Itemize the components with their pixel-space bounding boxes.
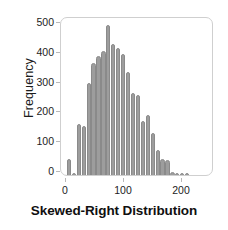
histogram-bar (160, 159, 164, 176)
histogram-bar (131, 93, 135, 176)
histogram-bar (156, 150, 160, 176)
y-tick-mark (56, 141, 60, 142)
x-tick-label: 200 (166, 185, 196, 196)
histogram-bar (185, 173, 189, 177)
y-tick-mark (56, 22, 60, 23)
y-tick-label: 200 (28, 106, 54, 117)
x-tick-mark (123, 178, 124, 182)
histogram-figure: Frequency 0100200300400500 Skewed-Right … (0, 0, 228, 230)
histogram-bar (116, 48, 120, 176)
histogram-bar (91, 63, 95, 176)
x-tick-mark (181, 178, 182, 182)
histogram-bar (87, 83, 91, 176)
histogram-bar (136, 95, 140, 176)
histogram-bar (72, 173, 76, 177)
plot-area (60, 17, 213, 176)
histogram-bar (67, 159, 71, 176)
histogram-bar (141, 121, 145, 176)
chart-title: Skewed-Right Distribution (0, 203, 228, 218)
y-tick-mark (56, 171, 60, 172)
y-tick-label: 0 (28, 166, 54, 177)
x-tick-mark (65, 178, 66, 182)
histogram-bar (101, 51, 105, 176)
histogram-bar (106, 25, 110, 176)
histogram-bar (77, 124, 81, 176)
y-tick-label: 300 (28, 76, 54, 87)
histogram-bar (121, 54, 125, 176)
histogram-bar (170, 172, 174, 176)
y-tick-label: 100 (28, 136, 54, 147)
x-tick-label: 100 (108, 185, 138, 196)
histogram-bar (96, 56, 100, 176)
y-tick-label: 400 (28, 47, 54, 58)
histogram-bar (82, 126, 86, 176)
histogram-bar (126, 72, 130, 176)
y-axis-tick-labels: 0100200300400500 (28, 0, 54, 230)
y-tick-mark (56, 111, 60, 112)
y-tick-mark (56, 82, 60, 83)
histogram-bar (180, 173, 184, 177)
y-tick-label: 500 (28, 17, 54, 28)
histogram-bar (146, 115, 150, 176)
y-tick-mark (56, 52, 60, 53)
histogram-bar (165, 160, 169, 176)
histogram-bars (61, 18, 212, 175)
histogram-bar (175, 173, 179, 177)
histogram-bar (151, 133, 155, 176)
x-tick-label: 0 (50, 185, 80, 196)
histogram-bar (111, 44, 115, 176)
